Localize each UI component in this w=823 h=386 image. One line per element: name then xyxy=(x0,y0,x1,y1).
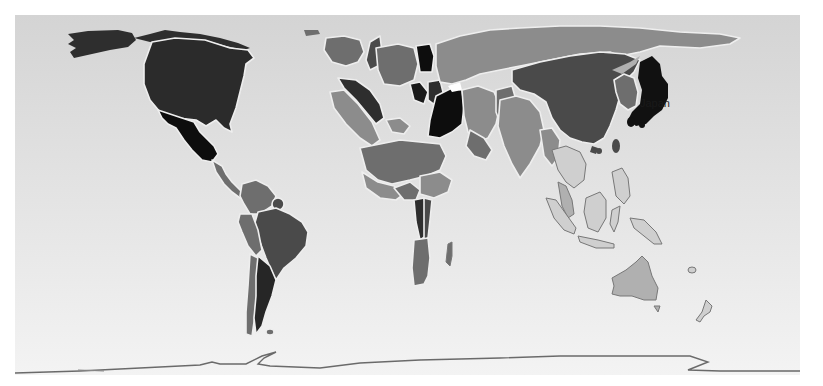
region-germany[interactable] xyxy=(376,44,418,86)
region-poland[interactable] xyxy=(416,44,434,72)
region-japan-shikoku[interactable] xyxy=(639,122,645,128)
region-new-caledonia[interactable] xyxy=(688,267,696,273)
label-japan: Japan xyxy=(640,97,670,109)
region-falklands[interactable] xyxy=(266,329,274,335)
map-container: Japan xyxy=(0,0,823,386)
region-japan-kyushu[interactable] xyxy=(627,117,635,127)
region-south-africa[interactable] xyxy=(412,238,430,286)
region-taiwan[interactable] xyxy=(612,139,620,153)
world-cartogram[interactable]: Japan xyxy=(0,0,823,386)
